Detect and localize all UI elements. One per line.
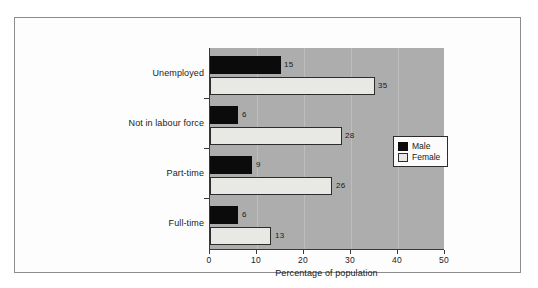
value-label-part-time-male: 9 (256, 160, 261, 169)
value-label-not-in-labour-force-male: 6 (242, 110, 247, 119)
value-label-full-time-female: 13 (275, 231, 284, 240)
category-label-part-time: Part-time (167, 168, 204, 178)
x-tick-label-50: 50 (439, 255, 449, 265)
category-label-not-in-labour-force: Not in labour force (129, 118, 204, 128)
bar-full-time-female[interactable] (210, 227, 271, 245)
x-tick-30 (350, 250, 351, 254)
value-label-unemployed-male: 15 (284, 60, 293, 69)
x-tick-10 (256, 250, 257, 254)
x-tick-0 (209, 250, 210, 254)
category-label-full-time: Full-time (169, 218, 204, 228)
chart-legend: Male Female (393, 136, 448, 167)
x-tick-label-20: 20 (298, 255, 308, 265)
x-tick-50 (444, 250, 445, 254)
bar-part-time-female[interactable] (210, 177, 332, 195)
value-label-unemployed-female: 35 (378, 81, 387, 90)
x-tick-20 (303, 250, 304, 254)
bar-unemployed-female[interactable] (210, 77, 375, 95)
legend-item-female[interactable]: Female (398, 152, 443, 162)
x-tick-label-10: 10 (251, 255, 261, 265)
bar-part-time-male[interactable] (210, 156, 252, 174)
legend-label-female: Female (412, 152, 440, 162)
value-label-full-time-male: 6 (242, 210, 247, 219)
figure-frame: Unemployed Not in labour force Part-time… (14, 17, 521, 273)
x-tick-40 (397, 250, 398, 254)
value-label-not-in-labour-force-female: 28 (345, 131, 354, 140)
category-label-unemployed: Unemployed (152, 68, 204, 78)
bar-full-time-male[interactable] (210, 206, 238, 224)
bar-not-in-labour-force-male[interactable] (210, 106, 238, 124)
legend-item-male[interactable]: Male (398, 141, 443, 151)
x-axis-title: Percentage of population (209, 268, 444, 278)
legend-label-male: Male (412, 141, 430, 151)
bar-not-in-labour-force-female[interactable] (210, 127, 342, 145)
x-tick-label-40: 40 (392, 255, 402, 265)
legend-swatch-female-icon (398, 153, 408, 162)
legend-swatch-male-icon (398, 142, 408, 151)
category-axis: Unemployed Not in labour force Part-time… (29, 48, 204, 250)
bar-unemployed-male[interactable] (210, 56, 281, 74)
x-tick-label-30: 30 (345, 255, 355, 265)
x-tick-label-0: 0 (207, 255, 212, 265)
value-label-part-time-female: 26 (336, 181, 345, 190)
